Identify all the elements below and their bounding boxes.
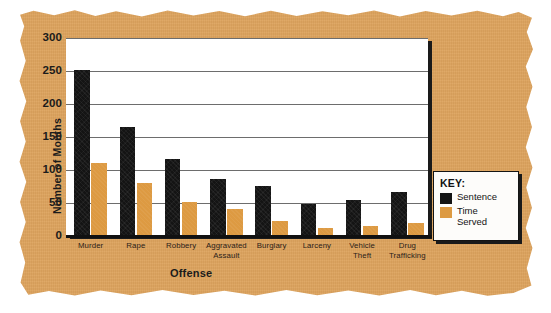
y-tick-label: 150 [22,130,62,142]
x-tick-label: Burglary [246,241,298,251]
x-axis-line [66,235,432,238]
bar-sentence [210,179,226,236]
x-tick-label-line: Rape [126,241,145,250]
y-tick-label: 300 [22,31,62,43]
x-tick-label: Rape [110,241,162,251]
y-tick-label: 200 [22,97,62,109]
x-tick-label-line: Murder [78,241,103,250]
bar-sentence [165,159,181,236]
bar-sentence [74,70,90,236]
bar-sentence [301,204,317,236]
legend-label-sentence: Sentence [457,192,497,203]
y-tick-label: 100 [22,163,62,175]
x-axis-title: Offense [170,267,212,279]
x-tick-label-line: Vehicle [349,241,375,250]
chart-screenshot: Number of Months 050100150200250300 Murd… [0,0,551,313]
x-tick-label-line: Theft [353,251,371,260]
bar-time-served [272,221,288,236]
x-tick-label-line: Assault [213,251,239,260]
bar-time-served [227,209,243,236]
legend-row-time-served: Time Served [440,206,512,227]
x-tick-label-line: Robbery [166,241,196,250]
y-tick-label: 50 [22,196,62,208]
legend-box: KEY: Sentence Time Served [433,171,519,241]
plot-area [66,38,428,236]
orange-swatch-icon [440,207,452,218]
x-tick-label-line: Drug [399,241,416,250]
x-tick-label-line: Aggravated [206,241,247,250]
x-tick-label: Robbery [155,241,207,251]
y-tick-label: 0 [22,229,62,241]
x-tick-label-line: Trafficking [389,251,426,260]
x-tick-label: AggravatedAssault [200,241,252,260]
bar-series-container [66,38,428,236]
bar-time-served [182,202,198,236]
legend-row-sentence: Sentence [440,192,512,204]
legend-label-time-served: Time Served [457,206,487,227]
x-tick-label: Larceny [291,241,343,251]
bar-sentence [120,127,136,236]
bar-time-served [137,183,153,236]
x-tick-label: VehicleTheft [336,241,388,260]
x-tick-label: DrugTrafficking [381,241,433,260]
x-tick-label-line: Burglary [257,241,287,250]
x-tick-label: Murder [65,241,117,251]
bar-sentence [391,192,407,236]
legend-title: KEY: [440,177,512,189]
y-axis-tick-labels: 050100150200250300 [20,0,62,260]
black-swatch-icon [440,193,452,204]
bar-sentence [255,186,271,236]
x-tick-label-line: Larceny [303,241,331,250]
y-tick-label: 250 [22,64,62,76]
bar-sentence [346,200,362,236]
bar-time-served [91,163,107,236]
